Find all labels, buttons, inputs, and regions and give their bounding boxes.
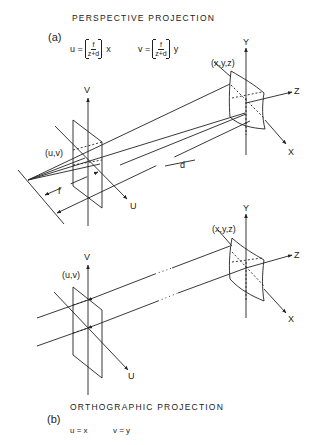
x-axis-label-b: X: [288, 314, 294, 324]
image-point-label-a: (u,v): [45, 148, 63, 158]
x-axis-label-a: X: [288, 147, 294, 157]
object-patch-b: [218, 230, 264, 301]
orthographic-title: ORTHOGRAPHIC PROJECTION: [70, 402, 224, 412]
distance-label: d: [180, 160, 185, 170]
equation-u-perspective: u = f z+d x: [70, 40, 111, 58]
u-axis-label-b: U: [128, 371, 135, 381]
u-axis-label-a: U: [130, 201, 137, 211]
z-axis-b: [246, 255, 292, 268]
diagram-lines: [0, 0, 315, 445]
object-point-label-b: (x,y,z): [212, 224, 236, 234]
y-axis-label-a: Y: [243, 37, 249, 47]
y-axis-label-b: Y: [243, 203, 249, 213]
equation-v-perspective: v = f z+d y: [138, 40, 178, 58]
v-axis-label-b: V: [84, 252, 90, 262]
projection-figure: PERSPECTIVE PROJECTION (a) u = f z+d x v…: [0, 0, 315, 445]
x-axis-b: [264, 289, 286, 313]
z-axis-label-a: Z: [294, 86, 300, 96]
object-point-label-a: (x,y,z): [211, 58, 235, 68]
viewpoint-line-a: [18, 170, 64, 224]
x-axis-a: [265, 120, 286, 144]
u-axis-b: [54, 292, 128, 370]
z-axis-label-b: Z: [294, 250, 300, 260]
perspective-title: PERSPECTIVE PROJECTION: [72, 13, 215, 23]
panel-b-letter: (b): [47, 413, 60, 425]
object-patch-a: [214, 62, 265, 129]
panel-a-letter: (a): [48, 31, 61, 43]
v-axis-label-a: V: [84, 85, 90, 95]
equation-u-orthographic: u = x: [70, 426, 88, 435]
image-point-label-b: (u,v): [62, 270, 80, 280]
focal-length-label: f: [58, 186, 61, 196]
equation-v-orthographic: v = y: [113, 426, 130, 435]
